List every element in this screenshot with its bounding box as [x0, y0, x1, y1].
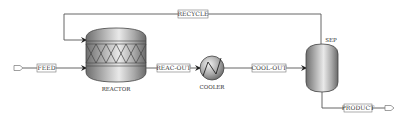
cooler-unit[interactable]: COOLER [199, 56, 225, 90]
stream-label-cool-out: COOL-OUT [251, 64, 286, 71]
stream-label-reac-out: REAC-OUT [156, 64, 191, 71]
flash-drum-icon [306, 44, 338, 92]
outlet-arrow-icon [385, 106, 394, 111]
process-flow-diagram: RECYCLE FEED REACTOR REAC-OUT COOLER COO… [0, 0, 407, 120]
stream-reac-out[interactable]: REAC-OUT [146, 64, 200, 72]
stream-feed[interactable]: FEED [14, 64, 86, 72]
reactor-vessel-icon [86, 28, 146, 82]
unit-label-sep: SEP [325, 37, 337, 43]
inlet-arrow-icon [14, 66, 23, 71]
stream-label-product: PRODUCT [342, 104, 375, 111]
unit-label-cooler: COOLER [199, 84, 225, 90]
unit-label-reactor: REACTOR [102, 86, 132, 92]
reactor-unit[interactable]: REACTOR [86, 28, 146, 92]
stream-label-feed: FEED [37, 64, 55, 71]
stream-product[interactable]: PRODUCT [322, 92, 394, 112]
stream-label-recycle: RECYCLE [178, 10, 209, 17]
stream-cool-out[interactable]: COOL-OUT [224, 64, 306, 72]
separator-unit[interactable]: SEP [306, 37, 338, 92]
